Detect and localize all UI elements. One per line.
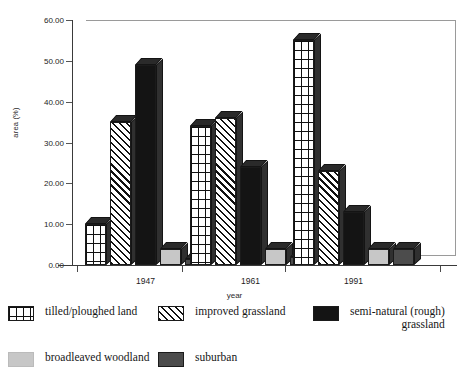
x-tick-mark	[182, 266, 183, 272]
legend-label: improved grassland	[195, 305, 285, 318]
chart-legend: tilled/ploughed landimproved grasslandse…	[0, 305, 469, 389]
bar-1961-broadleaved-woodland	[265, 242, 286, 265]
bar-front-face	[110, 122, 131, 265]
bar-1991-tilled-ploughed-land	[293, 33, 314, 265]
bar-front-face	[240, 167, 261, 265]
bar-front-face	[265, 249, 286, 265]
grid-swatch-icon	[8, 306, 34, 321]
bar-front-face	[190, 126, 211, 265]
x-tick-label: 1947	[136, 276, 155, 286]
legend-label: tilled/ploughed land	[45, 305, 137, 318]
bar-front-face	[343, 212, 364, 265]
bar-1947-tilled-ploughed-land	[85, 217, 106, 265]
bar-front-face	[160, 249, 181, 265]
bar-front-face	[135, 65, 156, 265]
bar-front-face	[318, 171, 339, 265]
bar-front-face	[393, 249, 414, 265]
bar-1961-improved-grassland	[215, 111, 236, 265]
diagonal-hatch-swatch-icon	[158, 306, 184, 321]
bar-front-face	[368, 249, 389, 265]
bar-front-face	[85, 224, 106, 265]
x-tick-label: 1991	[344, 276, 363, 286]
bar-1991-broadleaved-woodland	[368, 242, 389, 265]
legend-label: semi-natural (rough) grassland	[350, 305, 445, 331]
bar-chart: area (%) 0.0010.0020.0030.0040.0050.0060…	[0, 0, 469, 389]
x-axis-title: year	[0, 291, 469, 300]
bar-front-face	[293, 40, 314, 265]
bar-series-container	[0, 0, 469, 300]
x-tick-mark	[285, 266, 286, 272]
legend-item-improved-grassland[interactable]: improved grassland	[158, 305, 285, 321]
legend-item-suburban[interactable]: suburban	[158, 351, 237, 367]
bar-side-face	[156, 59, 163, 265]
legend-item-broadleaved-woodland[interactable]: broadleaved woodland	[8, 351, 149, 367]
bar-1947-broadleaved-woodland	[160, 242, 181, 265]
bar-1991-suburban	[393, 242, 414, 265]
bar-1991-improved-grassland	[318, 164, 339, 265]
legend-label: broadleaved woodland	[45, 351, 149, 364]
dark-gray-swatch-icon	[158, 352, 184, 367]
light-gray-swatch-icon	[8, 352, 34, 367]
legend-label: suburban	[195, 351, 237, 364]
black-swatch-icon	[313, 306, 339, 321]
bar-front-face	[215, 118, 236, 265]
x-tick-mark	[77, 266, 78, 272]
x-tick-label: 1961	[241, 276, 260, 286]
legend-item-tilled-ploughed-land[interactable]: tilled/ploughed land	[8, 305, 137, 321]
plot-area: area (%) 0.0010.0020.0030.0040.0050.0060…	[0, 0, 469, 300]
bar-1991-semi-natural-rough-grassland	[343, 205, 364, 265]
bar-1947-improved-grassland	[110, 115, 131, 265]
x-tick-mark	[440, 266, 441, 272]
bar-1961-tilled-ploughed-land	[190, 119, 211, 265]
bar-1947-semi-natural-rough-grassland	[135, 58, 156, 265]
bar-1961-semi-natural-rough-grassland	[240, 160, 261, 265]
legend-item-semi-natural-rough[interactable]: semi-natural (rough) grassland	[313, 305, 445, 331]
